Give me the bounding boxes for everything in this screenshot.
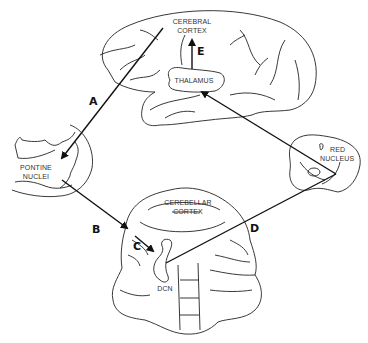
arrow-a: [62, 28, 163, 158]
pathway-label-d: D: [250, 222, 259, 235]
label-line: PONTINE: [14, 163, 58, 172]
midbrain-drawing: [289, 135, 360, 192]
label-line: NUCLEI: [14, 172, 58, 181]
arrow-d-to-thalamus: [202, 92, 336, 174]
arrow-b: [62, 180, 127, 228]
label-line: CEREBRAL: [167, 17, 217, 26]
label-pontine-nuclei: PONTINE NUCLEI: [14, 163, 58, 181]
arrow-d-to-red: [166, 174, 336, 263]
label-red-nucleus: RED NUCLEUS: [324, 145, 364, 163]
label-line: CORTEX: [160, 207, 216, 216]
pathway-label-e: E: [197, 45, 205, 58]
label-thalamus: THALAMUS: [170, 76, 218, 85]
label-cerebellar-cortex: CEREBELLAR CORTEX: [160, 198, 216, 216]
label-line: CORTEX: [167, 26, 217, 35]
pathway-arrows: [62, 28, 336, 263]
pathway-label-b: B: [92, 223, 100, 236]
label-line: CEREBELLAR: [160, 198, 216, 207]
label-line: NUCLEUS: [320, 154, 364, 163]
label-dcn: DCN: [154, 284, 176, 293]
label-line: RED: [324, 145, 364, 154]
label-cerebral-cortex: CEREBRAL CORTEX: [167, 17, 217, 35]
pathway-label-c: C: [133, 240, 141, 253]
pontine-drawing: [12, 125, 93, 197]
pathway-label-a: A: [89, 95, 98, 108]
